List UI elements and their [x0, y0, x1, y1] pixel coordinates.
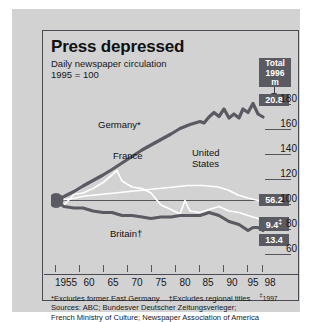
- plot-area: Germany* UnitedStates France Britain†: [51, 82, 265, 272]
- y-gridline-180: [265, 104, 291, 105]
- series-label-germany: Germany*: [98, 119, 141, 130]
- x-tick-label-1960: 60: [83, 277, 94, 288]
- y-tick-label-60: 60: [286, 243, 297, 254]
- y-gridline-60: [265, 254, 291, 255]
- y-gridline-100: [265, 204, 291, 205]
- y-tick-label-160: 160: [280, 118, 297, 129]
- x-tick-label-1975: 75: [155, 277, 166, 288]
- x-axis-labels: 1955 60 65 70 75 80 85 90 95 98: [51, 277, 265, 290]
- chart-title: Press depressed: [51, 37, 184, 56]
- x-tick-label-1990: 90: [226, 277, 237, 288]
- x-tick-label-1970: 70: [131, 277, 142, 288]
- x-axis-ticks: [56, 265, 263, 272]
- x-tick-label-1995: 95: [247, 277, 258, 288]
- y-gridline-80: [265, 229, 291, 230]
- y-axis: 180 160 140 120 100 80 60: [265, 82, 299, 272]
- series-line-britain: [55, 201, 263, 231]
- series-label-united-states: UnitedStates: [192, 147, 219, 169]
- series-label-france: France: [113, 150, 143, 161]
- y-tick-label-140: 140: [280, 143, 297, 154]
- x-tick-label-1980: 80: [179, 277, 190, 288]
- y-tick-label-80: 80: [286, 218, 297, 229]
- y-gridline-160: [265, 129, 291, 130]
- y-tick-label-100: 100: [280, 193, 297, 204]
- y-gridline-140: [265, 154, 291, 155]
- series-lines-svg: [51, 82, 265, 272]
- x-tick-label-1998: 98: [264, 277, 275, 288]
- chart-card: Press depressed Daily newspaper circulat…: [42, 30, 299, 301]
- chart-subtitle-1: Daily newspaper circulation: [51, 58, 167, 69]
- x-tick-label-1965: 65: [107, 277, 118, 288]
- y-tick-label-180: 180: [280, 93, 297, 104]
- footnote-line-2: Sources: ABC; Bundesver Deutscher Zeitun…: [51, 303, 296, 313]
- series-line-germany: [55, 104, 263, 201]
- footnote-line-3: French Ministry of Culture; Newspaper As…: [51, 313, 296, 322]
- y-gridline-120: [265, 179, 291, 180]
- x-tick-label-1955: 1955: [55, 277, 77, 288]
- chart-subtitle-2: 1995 = 100: [51, 69, 99, 80]
- y-tick-label-120: 120: [280, 168, 297, 179]
- x-tick-label-1985: 85: [202, 277, 213, 288]
- footnotes: *Excludes former East Germany†Excludes r…: [51, 290, 296, 322]
- chart-panel: Press depressed Daily newspaper circulat…: [12, 9, 300, 312]
- series-label-britain: Britain†: [110, 228, 142, 239]
- footnote-line-1: *Excludes former East Germany†Excludes r…: [51, 290, 296, 303]
- footer-divider: [44, 274, 299, 275]
